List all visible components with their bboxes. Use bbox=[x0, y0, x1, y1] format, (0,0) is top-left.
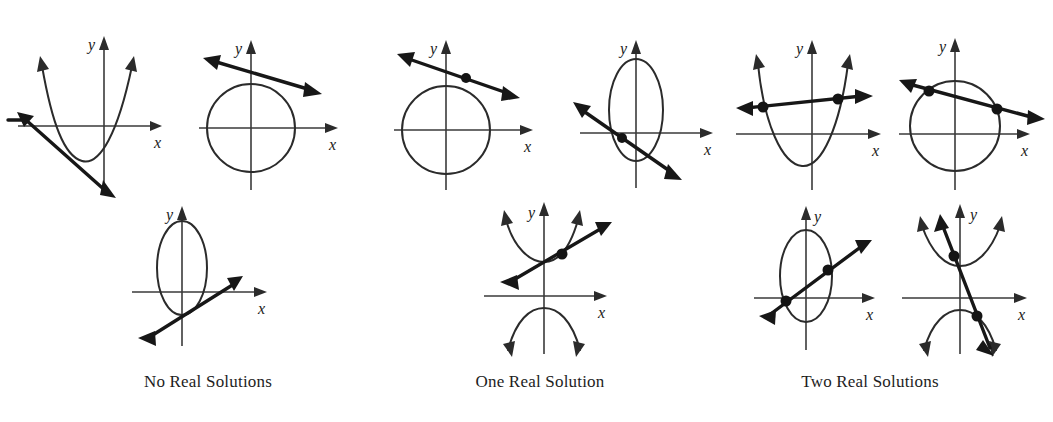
y-axis-label: y bbox=[937, 38, 947, 56]
x-axis-label: x bbox=[523, 138, 531, 155]
caption-group-one-real-solution: One Real Solution bbox=[370, 372, 710, 392]
parabola-curve bbox=[37, 56, 137, 161]
x-axis-label: x bbox=[865, 306, 873, 323]
conic-intersection-figure: x y x y bbox=[0, 0, 1053, 422]
x-axis-label: x bbox=[1017, 306, 1025, 323]
x-axis-label: x bbox=[1020, 142, 1028, 159]
non-intersecting-line bbox=[138, 276, 243, 346]
secant-line bbox=[736, 89, 873, 116]
x-axis-label: x bbox=[703, 141, 711, 158]
x-axis-label: x bbox=[153, 134, 161, 151]
intersection-point bbox=[617, 133, 627, 143]
panel-parabola-missed-line: x y bbox=[8, 28, 178, 193]
y-axis-label: y bbox=[233, 40, 243, 58]
x-axis-label: x bbox=[871, 142, 879, 159]
panel-hyperbola-secant: x y bbox=[898, 198, 1053, 358]
axes bbox=[899, 38, 1030, 190]
parabola-curve bbox=[753, 54, 853, 166]
tangent-line bbox=[500, 222, 612, 290]
intersection-point bbox=[461, 73, 471, 83]
secant-line bbox=[934, 214, 994, 356]
panel-ellipse-secant: x y bbox=[752, 198, 902, 353]
y-axis-label: y bbox=[618, 40, 628, 58]
y-axis-label: y bbox=[86, 36, 96, 54]
intersection-point bbox=[833, 94, 844, 105]
y-axis-label: y bbox=[526, 204, 536, 222]
panel-circle-tangent: x y bbox=[390, 28, 555, 193]
non-intersecting-line bbox=[203, 55, 322, 97]
intersection-point bbox=[823, 265, 834, 276]
hyperbola-upper-branch bbox=[501, 210, 583, 262]
caption-group-two-real-solutions: Two Real Solutions bbox=[700, 372, 1040, 392]
caption-text: No Real Solutions bbox=[144, 372, 272, 391]
panel-parabola-secant: x y bbox=[728, 28, 903, 193]
secant-line bbox=[899, 79, 1045, 125]
intersection-point bbox=[924, 86, 935, 97]
panel-ellipse-missed-line: x y bbox=[128, 198, 288, 348]
intersection-point bbox=[781, 296, 792, 307]
tangent-line bbox=[573, 102, 682, 180]
panel-circle-secant: x y bbox=[893, 28, 1053, 193]
secant-line bbox=[759, 240, 872, 325]
panel-ellipse-tangent: x y bbox=[570, 28, 735, 193]
hyperbola-upper-branch bbox=[917, 216, 1005, 266]
x-axis-label: x bbox=[597, 304, 605, 321]
y-axis-label: y bbox=[812, 208, 822, 226]
y-axis-label: y bbox=[428, 40, 438, 58]
intersection-point bbox=[972, 311, 983, 322]
tangent-line bbox=[397, 52, 520, 101]
axes bbox=[754, 206, 875, 350]
caption-text: One Real Solution bbox=[476, 372, 605, 391]
intersection-point bbox=[949, 251, 960, 262]
intersection-point bbox=[992, 104, 1003, 115]
caption-text: Two Real Solutions bbox=[801, 372, 938, 391]
y-axis-label: y bbox=[968, 206, 978, 224]
caption-group-no-real-solutions: No Real Solutions bbox=[38, 372, 378, 392]
y-axis-label: y bbox=[794, 40, 804, 58]
panel-hyperbola-tangent: x y bbox=[478, 198, 638, 358]
panel-circle-missed-line: x y bbox=[195, 28, 360, 193]
x-axis-label: x bbox=[257, 300, 265, 317]
y-axis-label: y bbox=[164, 206, 174, 224]
axes bbox=[132, 206, 267, 346]
x-axis-label: x bbox=[328, 136, 336, 153]
intersection-point bbox=[758, 102, 769, 113]
intersection-point bbox=[557, 249, 568, 260]
